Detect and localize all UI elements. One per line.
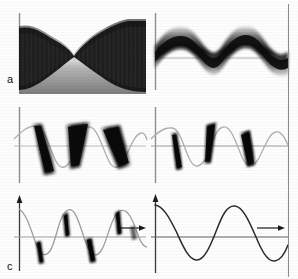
panel-f-t-arrowhead [278, 225, 285, 230]
panel-c: c [0, 95, 149, 187]
panel-c-label: c [7, 261, 13, 272]
panel-c-wedge-core-2 [68, 124, 88, 166]
panel-c-plot [0, 95, 149, 187]
figure-oscilloscope-panels: a [0, 0, 298, 279]
panel-b: b [149, 0, 298, 95]
panel-f: f X t [149, 187, 298, 279]
figure-right-frame [288, 4, 289, 275]
panel-d: d [149, 95, 298, 187]
panel-d-plot [149, 95, 298, 187]
panel-f-y-arrowhead [153, 194, 159, 202]
panel-e-t-arrowhead [139, 225, 146, 230]
panel-b-band [155, 26, 288, 76]
panel-e-plot [0, 187, 149, 279]
panel-e: e X t [0, 187, 149, 279]
panel-f-plot [149, 187, 298, 279]
panel-a-plot [0, 0, 149, 95]
panel-a: a [0, 0, 149, 95]
panel-a-label: a [7, 74, 13, 85]
panel-b-plot [149, 0, 298, 95]
panel-e-y-arrowhead [17, 195, 23, 203]
panel-f-sine-curve [155, 205, 288, 261]
